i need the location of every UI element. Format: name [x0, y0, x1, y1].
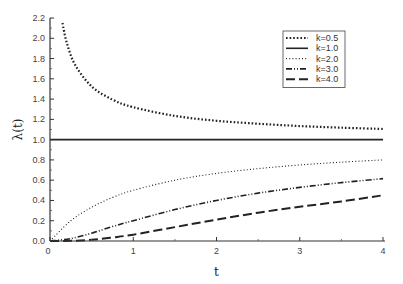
- legend: k=0.5k=1.0k=2.0k=3.0k=4.0: [283, 31, 345, 88]
- y-tick-label: 0.6: [32, 175, 45, 185]
- y-tick-label: 1.8: [32, 54, 45, 64]
- x-tick-label: 1: [131, 246, 136, 256]
- y-tick-label: 1.2: [32, 114, 45, 124]
- y-tick-label: 2.2: [32, 13, 45, 23]
- y-tick-label: 0.0: [32, 236, 45, 246]
- legend-label: k=3.0: [316, 64, 338, 74]
- y-ticks: 0.00.20.40.60.81.01.21.41.61.82.02.2: [32, 13, 54, 246]
- y-tick-label: 2.0: [32, 33, 45, 43]
- y-axis-label: λ(t): [11, 119, 25, 141]
- x-tick-label: 3: [297, 246, 302, 256]
- chart: 0.00.20.40.60.81.01.21.41.61.82.02.2 012…: [0, 0, 403, 284]
- x-tick-label: 2: [214, 246, 219, 256]
- legend-label: k=4.0: [316, 74, 338, 84]
- y-tick-label: 0.4: [32, 195, 45, 205]
- legend-label: k=2.0: [316, 54, 338, 64]
- y-tick-label: 1.0: [32, 135, 45, 145]
- y-tick-label: 1.4: [32, 94, 45, 104]
- y-tick-label: 1.6: [32, 74, 45, 84]
- y-tick-label: 0.8: [32, 155, 45, 165]
- y-tick-label: 0.2: [32, 216, 45, 226]
- series-line-k-4-0: [50, 195, 383, 241]
- x-axis-label: t: [214, 265, 219, 279]
- legend-label: k=1.0: [316, 43, 338, 53]
- legend-label: k=0.5: [316, 33, 338, 43]
- series-line-k-3-0: [50, 179, 383, 241]
- x-tick-label: 0: [45, 246, 50, 256]
- x-tick-label: 4: [380, 246, 385, 256]
